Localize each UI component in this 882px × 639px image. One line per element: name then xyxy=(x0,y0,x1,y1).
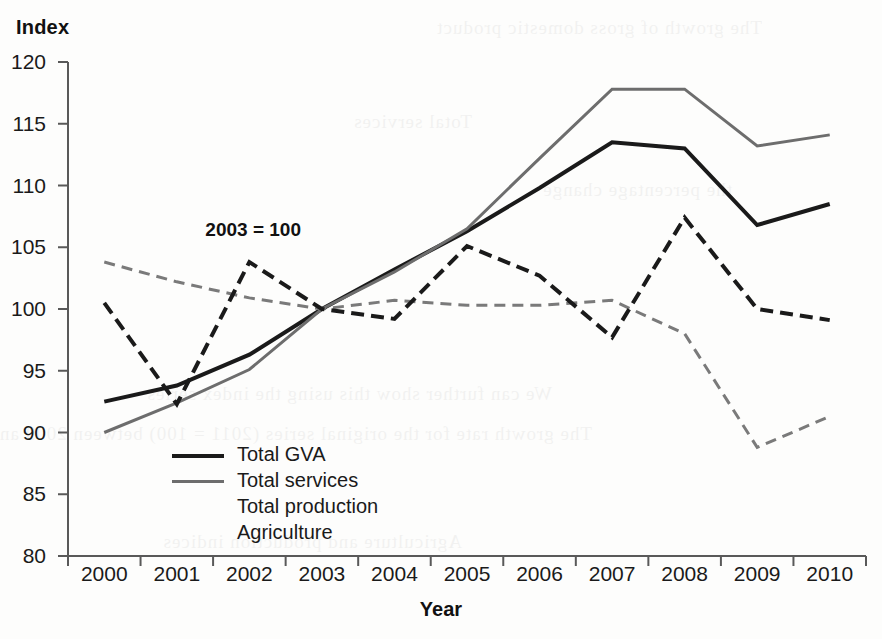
x-tick-label: 2003 xyxy=(299,562,346,586)
y-tick-label: 115 xyxy=(0,112,46,136)
data-series-layer xyxy=(104,89,829,447)
y-tick-label: 105 xyxy=(0,235,46,259)
chart-legend: Total GVA Total services Total productio… xyxy=(172,441,378,545)
legend-item-total-production: Total production xyxy=(172,493,378,519)
baseline-annotation: 2003 = 100 xyxy=(205,219,301,241)
legend-label: Total GVA xyxy=(237,443,326,466)
y-tick-label: 120 xyxy=(0,50,46,74)
legend-item-agriculture: Agriculture xyxy=(172,519,378,545)
y-tick-label: 80 xyxy=(0,544,46,568)
legend-label: Agriculture xyxy=(237,521,333,544)
x-tick-label: 2001 xyxy=(153,562,200,586)
x-tick-label: 2007 xyxy=(589,562,636,586)
y-tick-label: 95 xyxy=(0,359,46,383)
series-line xyxy=(104,89,829,432)
x-tick-label: 2005 xyxy=(444,562,491,586)
x-tick-label: 2000 xyxy=(81,562,128,586)
legend-item-total-gva: Total GVA xyxy=(172,441,378,467)
plot-area xyxy=(0,0,882,639)
series-line xyxy=(104,218,829,404)
legend-swatch-dashed-gray-icon xyxy=(172,499,224,513)
series-line xyxy=(104,142,829,401)
legend-swatch-dashed-black-icon xyxy=(172,525,224,539)
y-tick-label: 100 xyxy=(0,297,46,321)
x-tick-label: 2004 xyxy=(371,562,418,586)
y-tick-label: 90 xyxy=(0,421,46,445)
chart-page: The growth of gross domestic product Tot… xyxy=(0,0,882,639)
x-tick-label: 2010 xyxy=(806,562,853,586)
legend-label: Total services xyxy=(237,469,358,492)
series-line xyxy=(104,262,829,447)
x-tick-label: 2006 xyxy=(516,562,563,586)
legend-swatch-solid-gray-icon xyxy=(172,473,224,487)
legend-swatch-solid-black-icon xyxy=(172,447,224,461)
x-tick-label: 2009 xyxy=(734,562,781,586)
x-tick-label: 2008 xyxy=(661,562,708,586)
legend-label: Total production xyxy=(237,495,378,518)
y-tick-label: 110 xyxy=(0,174,46,198)
x-tick-label: 2002 xyxy=(226,562,273,586)
legend-item-total-services: Total services xyxy=(172,467,378,493)
y-tick-label: 85 xyxy=(0,482,46,506)
